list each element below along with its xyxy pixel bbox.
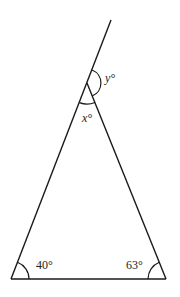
angle-arc-bottom-left bbox=[18, 262, 30, 279]
angle-arc-apex-exterior bbox=[92, 70, 101, 96]
angle-label-y: y° bbox=[104, 71, 115, 85]
angle-label-bottom-left: 40° bbox=[36, 258, 53, 272]
angle-label-x: x° bbox=[81, 111, 92, 125]
angle-arc-bottom-right bbox=[148, 262, 159, 279]
triangle-diagram: 40° 63° x° y° bbox=[0, 0, 180, 297]
angle-label-bottom-right: 63° bbox=[126, 258, 143, 272]
angle-arc-apex-interior bbox=[79, 103, 95, 105]
left-side-extended bbox=[11, 20, 111, 279]
right-side bbox=[87, 83, 166, 279]
